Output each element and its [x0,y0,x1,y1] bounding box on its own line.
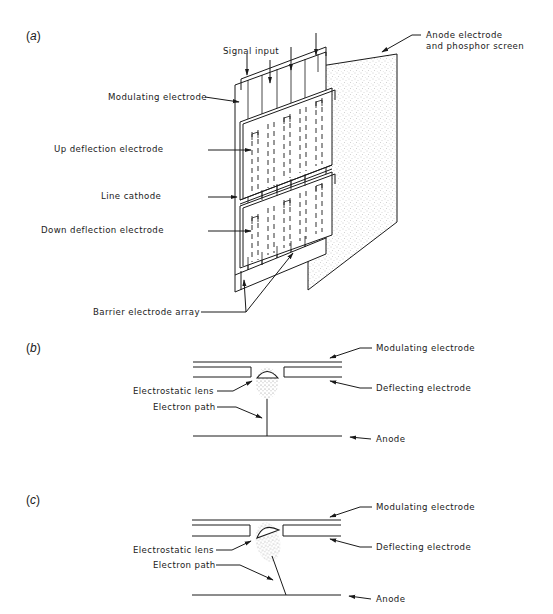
panel-b: (b) Modulating electrode Electrostatic l… [26,341,475,444]
label-phosphor-screen: and phosphor screen [426,41,524,51]
panel-a: (a) [26,29,524,317]
deflecting-electrode-left-c [192,525,250,536]
panel-b-label: (b) [26,341,41,355]
electron-path-c [272,556,286,595]
label-anode-c: Anode [376,594,405,604]
deflecting-electrode-right-c [283,525,341,536]
panel-a-label: (a) [26,29,41,43]
leader-anode [382,35,421,52]
panel-c: (c) Modulating electrode Electrostatic l… [26,493,475,604]
label-electrostatic-lens-c: Electrostatic lens [133,545,214,555]
figure-canvas: (a) [0,0,553,614]
leader-modulating-electrode [205,97,239,102]
label-up-deflection-electrode: Up deflection electrode [54,144,163,154]
label-deflecting-electrode-c: Deflecting electrode [376,542,471,552]
label-deflecting-electrode-b: Deflecting electrode [376,383,471,393]
label-signal-input: Signal input [223,46,279,56]
panel-c-label: (c) [26,493,40,507]
label-modulating-electrode-b: Modulating electrode [376,343,475,353]
label-anode-electrode: Anode electrode [426,30,502,40]
label-modulating-electrode: Modulating electrode [108,92,207,102]
label-modulating-electrode-c: Modulating electrode [376,502,475,512]
electron-cloud-c [252,520,284,564]
label-anode-b: Anode [376,434,405,444]
label-electron-path-b: Electron path [153,402,216,412]
deflecting-electrode-right-b [284,367,342,377]
deflecting-electrode-left-b [193,367,251,377]
label-down-deflection-electrode: Down deflection electrode [41,225,164,235]
label-electron-path-c: Electron path [153,560,216,570]
label-line-cathode: Line cathode [101,191,161,201]
label-barrier-electrode-array: Barrier electrode array [93,307,200,317]
label-electrostatic-lens-b: Electrostatic lens [133,386,214,396]
